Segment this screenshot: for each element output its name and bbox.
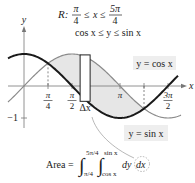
sin-curve-label: y = sin x [129,128,164,139]
representative-rectangle [80,55,90,101]
x-tick-label-den: 4 [46,101,51,111]
x-tick-label-num: π [46,90,51,100]
inner-lower-limit: cos x [102,170,117,178]
leq-2: ≤ [100,9,106,20]
y-axis-arrow-icon [22,26,26,32]
area-formula: Area = ∫ 5π/4 π/4 ∫ sin x cos x dy dx [46,149,150,178]
x-tick-label-num: π [70,90,75,100]
x-var: x [92,9,98,20]
dx-term: dx [136,159,146,170]
x-upper-den: 4 [113,15,118,26]
sin-label-box: y = sin x [124,125,168,141]
y-axis-label: y [21,14,27,25]
x-lower-den: 4 [74,15,79,26]
x-lower-num: π [73,3,79,14]
outer-lower-limit: π/4 [84,170,93,178]
double-integral-figure: R: π 4 ≤ x ≤ 5π 4 cos x ≤ y ≤ sin x x y … [0,0,195,183]
cos-curve-label: y = cos x [136,58,172,69]
x-tick-label-den: 2 [70,101,75,111]
y-condition: cos x ≤ y ≤ sin x [75,27,141,38]
inner-upper-limit: sin x [104,149,118,157]
x-upper-num: 5π [110,3,121,14]
formula-prefix: Area = [46,159,74,170]
dy-term: dy [122,159,132,170]
x-axis-arrow-icon [181,84,187,88]
leq-1: ≤ [84,9,90,20]
x-tick-label-num: π [118,90,123,100]
x-axis-label: x [188,80,194,91]
cos-label-box: y = cos x [133,56,176,70]
delta-x-label: Δx [79,102,90,113]
region-definition: R: π 4 ≤ x ≤ 5π 4 cos x ≤ y ≤ sin x [57,3,141,38]
region-label: R: [57,8,68,20]
x-tick-label-den: 2 [166,101,171,111]
y-tick-label: −1 [7,112,18,123]
